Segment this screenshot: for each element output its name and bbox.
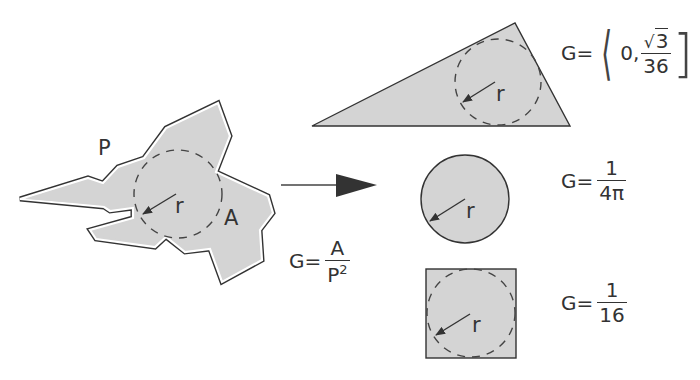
formula-general: G= A P2 [289,238,350,285]
formula-triangle-lhs: G= [561,43,593,63]
sqrt-symbol: √ [644,32,655,52]
formula-square-lhs: G= [561,293,593,313]
perimeter-label: P [98,138,111,159]
formula-square-numerator: 1 [604,280,621,302]
formula-triangle-fraction: √3 36 [641,31,670,76]
formula-square-denominator: 16 [597,302,626,325]
formula-triangle: G= ⟨ 0, √3 36 ] [561,24,693,82]
formula-circle-denominator: 4π [597,180,626,203]
formula-triangle-numerator: √3 [642,31,671,53]
close-square-bracket: ] [673,27,693,79]
formula-general-denominator: P2 [325,260,349,285]
formula-circle: G= 1 4π [561,158,626,203]
radius-label-polygon: r [175,196,184,217]
formula-circle-lhs: G= [561,171,593,191]
formula-circle-fraction: 1 4π [597,158,626,203]
radius-label-circle: r [466,201,475,222]
sqrt-value: 3 [655,28,669,53]
formula-circle-numerator: 1 [603,158,620,180]
formula-triangle-lower: 0, [620,43,639,63]
transform-arrow-head [336,174,377,197]
radius-label-triangle: r [496,84,505,105]
denominator-base: P [327,263,339,287]
denominator-exponent: 2 [339,262,347,277]
formula-triangle-denominator: 36 [641,53,670,76]
radius-label-square: r [472,315,481,336]
formula-square-fraction: 1 16 [597,280,626,325]
formula-square: G= 1 16 [561,280,627,325]
open-angle-bracket: ⟨ [601,24,613,82]
irregular-polygon [20,103,273,282]
area-label: A [224,208,238,229]
formula-general-fraction: A P2 [325,238,349,285]
formula-general-lhs: G= [289,251,321,271]
triangle-shape [312,23,570,126]
formula-general-numerator: A [329,238,347,260]
